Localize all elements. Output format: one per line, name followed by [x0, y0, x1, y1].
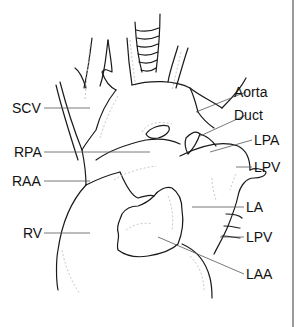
label-rpa: RPA	[14, 144, 42, 160]
heart-body	[57, 139, 181, 294]
great-vessels	[56, 38, 188, 160]
label-laa: LAA	[246, 266, 273, 282]
rpa-loop	[142, 122, 172, 138]
heart-diagram: SCV RPA RAA RV Aorta Duct LPA LPV LA LPV…	[0, 0, 296, 327]
laa	[117, 187, 182, 256]
label-raa: RAA	[12, 173, 41, 189]
label-duct: Duct	[234, 107, 263, 123]
label-la: LA	[246, 199, 264, 215]
labels: SCV RPA RAA RV Aorta Duct LPA LPV LA LPV…	[12, 84, 281, 282]
label-lpv-lower: LPV	[246, 229, 273, 245]
label-aorta: Aorta	[234, 84, 268, 100]
label-scv: SCV	[12, 100, 41, 116]
label-rv: RV	[23, 225, 43, 241]
label-lpa: LPA	[254, 132, 280, 148]
trachea	[135, 14, 160, 72]
right-border-divider	[292, 0, 294, 327]
leader-laa	[158, 237, 244, 274]
label-lpv-upper: LPV	[254, 159, 281, 175]
leader-lines	[44, 92, 252, 274]
lv-curve	[182, 244, 212, 298]
